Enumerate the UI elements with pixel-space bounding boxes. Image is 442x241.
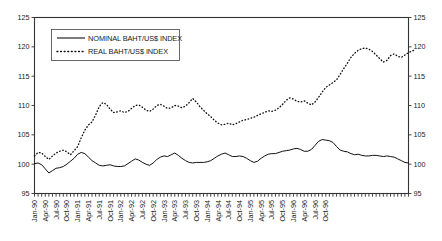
x-axis-tick-label: Apr-94	[214, 200, 223, 222]
x-axis-labels: Jan-90Apr-90Jul-90Oct-90Jan-91Apr-91Jul-…	[30, 200, 330, 222]
x-axis-tick-label: Jul-90	[52, 200, 61, 220]
x-axis-tick-label: Apr-91	[84, 200, 93, 222]
x-axis-tick-label: Jan-90	[30, 200, 39, 222]
y-axis-right: 95100105110115120125	[409, 13, 426, 198]
x-axis-tick-label: Oct-95	[278, 200, 287, 222]
chart-container: 95100105110115120125 9510010511011512012…	[0, 0, 442, 241]
x-axis-tick-label: Jul-93	[181, 200, 190, 220]
x-axis-tick-label: Jul-96	[311, 200, 320, 220]
x-axis-tick-label: Oct-93	[192, 200, 201, 222]
y-axis-right-tick-label: 100	[414, 160, 426, 169]
x-axis-tick-label: Jul-92	[138, 200, 147, 220]
x-axis-tick-label: Oct-92	[149, 200, 158, 222]
y-axis-right-tick-label: 105	[414, 130, 426, 139]
x-axis-tick-label: Apr-90	[41, 200, 50, 222]
x-axis-tick-label: Apr-92	[127, 200, 136, 222]
y-axis-left-tick-label: 120	[18, 42, 30, 51]
y-axis-right-tick-label: 95	[414, 189, 422, 198]
legend-label-real: REAL BAHT/US$ INDEX	[88, 47, 168, 56]
x-axis-tick-label: Jan-94	[203, 200, 212, 222]
series-line-nominal-baht-index	[35, 140, 409, 173]
x-axis-tick-label: Apr-93	[170, 200, 179, 222]
chart-legend: NOMINAL BAHT/US$ INDEX REAL BAHT/US$ IND…	[52, 30, 183, 61]
y-axis-left-tick-label: 100	[18, 160, 30, 169]
y-axis-left-tick-label: 105	[18, 130, 30, 139]
x-axis-tick-label: Jan-96	[289, 200, 298, 222]
y-axis-right-tick-label: 110	[414, 101, 425, 110]
y-axis-left-tick-label: 110	[18, 101, 29, 110]
legend-label-nominal: NOMINAL BAHT/US$ INDEX	[88, 34, 182, 43]
line-chart: 95100105110115120125 9510010511011512012…	[0, 0, 442, 241]
x-axis-tick-label: Apr-96	[300, 200, 309, 222]
x-axis-tick-label: Jul-95	[267, 200, 276, 220]
x-axis-tick-label: Oct-96	[321, 200, 330, 222]
x-axis-tick-label: Jan-95	[246, 200, 255, 222]
y-axis-left-tick-label: 115	[18, 72, 29, 81]
x-axis-tick-label: Oct-90	[62, 200, 71, 222]
y-axis-right-tick-label: 115	[414, 72, 425, 81]
y-axis-right-tick-label: 120	[414, 42, 426, 51]
y-axis-left-tick-label: 95	[22, 189, 30, 198]
x-axis-tick-label: Jan-91	[73, 200, 82, 222]
series-line-real-baht-index	[35, 48, 416, 159]
x-axis-tick-label: Jan-92	[116, 200, 125, 222]
y-axis-left: 95100105110115120125	[18, 13, 35, 198]
x-axis-tick-label: Oct-94	[235, 200, 244, 222]
x-axis-tick-label: Apr-95	[257, 200, 266, 222]
x-axis-tick-label: Jul-91	[95, 200, 104, 220]
y-axis-left-tick-label: 125	[18, 13, 30, 22]
x-axis-tick-label: Oct-91	[106, 200, 115, 222]
x-axis-tick-label: Jul-94	[224, 200, 233, 220]
y-axis-right-tick-label: 125	[414, 13, 426, 22]
x-axis-tick-label: Jan-93	[160, 200, 169, 222]
